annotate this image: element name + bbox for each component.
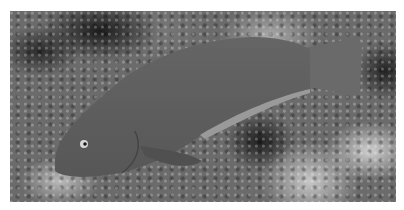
pupil [83, 142, 87, 146]
photo [10, 11, 396, 202]
fish [10, 11, 396, 202]
